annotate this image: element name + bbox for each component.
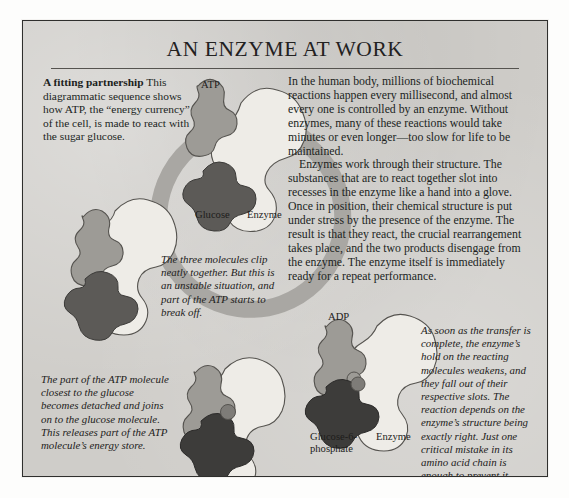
glucose-shape bbox=[180, 413, 254, 476]
adp-shape bbox=[314, 319, 366, 396]
illustration-frame: AN ENZYME AT WORK bbox=[22, 20, 548, 477]
stage-left-molecules bbox=[64, 199, 177, 341]
atp-shape bbox=[71, 209, 123, 286]
title-divider bbox=[51, 68, 519, 69]
adp-terminal-shape bbox=[347, 372, 361, 386]
label-enzyme-top: Enzyme bbox=[247, 209, 282, 221]
glucose-shape bbox=[183, 162, 256, 231]
phosphate-group-shape bbox=[221, 405, 236, 420]
label-glucose-6-phosphate: Glucose-6- phosphate bbox=[310, 431, 357, 454]
main-paragraph-2: Enzymes work through their structure. Th… bbox=[288, 158, 522, 283]
sidebar-heading: A fitting partnership bbox=[43, 76, 144, 88]
atp-shape bbox=[186, 79, 238, 156]
label-glucose: Glucose bbox=[195, 209, 230, 221]
phosphate-group-shape bbox=[351, 377, 365, 391]
page-canvas: AN ENZYME AT WORK bbox=[0, 0, 569, 498]
glucose-shape bbox=[64, 271, 138, 340]
caption-middle: The three molecules clip neatly together… bbox=[161, 253, 285, 319]
main-text-block: In the human body, millions of biochemic… bbox=[288, 75, 522, 284]
enzyme-shape bbox=[194, 358, 285, 476]
label-adp: ADP bbox=[328, 311, 349, 323]
caption-lower-left: The part of the ATP molecule closest to … bbox=[41, 373, 171, 452]
stage-bottom-molecules bbox=[180, 358, 285, 476]
main-paragraph-1: In the human body, millions of biochemic… bbox=[288, 75, 522, 158]
atp-shape bbox=[183, 365, 235, 442]
caption-lower-right: As soon as the transfer is complete, the… bbox=[421, 324, 539, 476]
page-title: AN ENZYME AT WORK bbox=[23, 37, 547, 62]
sidebar-text-block: A fitting partnership This diagrammatic … bbox=[43, 76, 193, 144]
label-enzyme-bottom: Enzyme bbox=[376, 431, 411, 443]
frame-inner: AN ENZYME AT WORK bbox=[23, 21, 547, 476]
label-atp: ATP bbox=[201, 79, 220, 91]
